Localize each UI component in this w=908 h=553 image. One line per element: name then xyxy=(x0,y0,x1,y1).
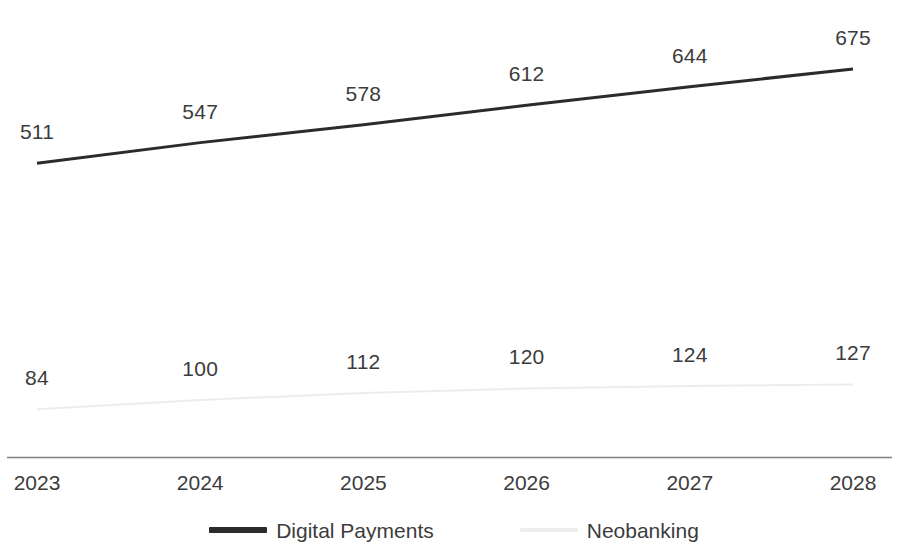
legend-item-digital-payments[interactable]: Digital Payments xyxy=(209,520,434,541)
data-label: 124 xyxy=(672,344,708,365)
x-axis-tick-2023: 2023 xyxy=(14,472,61,493)
series-line-digital-payments xyxy=(37,69,853,163)
legend-item-neobanking[interactable]: Neobanking xyxy=(520,520,699,541)
data-label: 578 xyxy=(346,83,382,104)
chart-legend: Digital PaymentsNeobanking xyxy=(0,512,908,548)
data-label: 511 xyxy=(20,121,54,142)
line-chart: 51154757861264467584100112120124127 2023… xyxy=(0,0,908,553)
x-axis-tick-2027: 2027 xyxy=(666,472,713,493)
data-label: 547 xyxy=(182,101,218,122)
x-axis-tick-2028: 2028 xyxy=(830,472,877,493)
data-label: 127 xyxy=(835,342,871,363)
legend-line-swatch xyxy=(520,528,578,532)
legend-label: Digital Payments xyxy=(276,520,434,541)
x-axis-tick-2024: 2024 xyxy=(177,472,224,493)
data-label: 84 xyxy=(25,367,49,388)
data-label: 100 xyxy=(182,358,218,379)
x-axis-tick-2025: 2025 xyxy=(340,472,387,493)
legend-label: Neobanking xyxy=(587,520,699,541)
data-label: 112 xyxy=(346,351,380,372)
legend-line-swatch xyxy=(209,527,267,533)
data-label: 675 xyxy=(835,27,871,48)
data-label: 644 xyxy=(672,45,708,66)
x-axis-tick-2026: 2026 xyxy=(503,472,550,493)
series-line-neobanking xyxy=(37,384,853,409)
chart-plot-area xyxy=(0,0,908,553)
data-label: 612 xyxy=(509,63,545,84)
data-label: 120 xyxy=(509,346,545,367)
